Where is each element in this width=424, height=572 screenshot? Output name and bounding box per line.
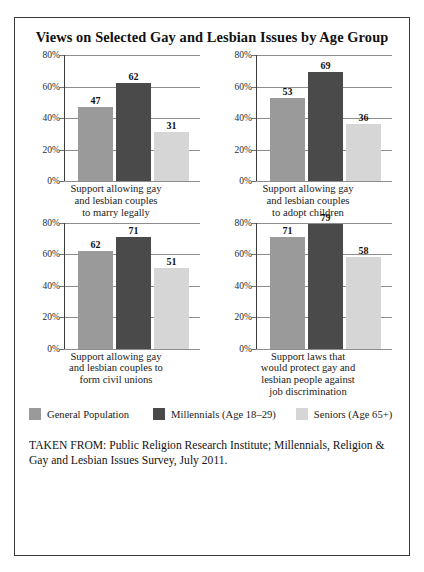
bar-value-label: 69 (308, 60, 343, 71)
bar-value-label: 62 (116, 71, 151, 82)
bar[interactable] (154, 268, 189, 348)
axis-tick (251, 181, 256, 182)
bar[interactable] (78, 251, 113, 349)
bar-group[interactable]: 69 (308, 55, 343, 181)
bar[interactable] (346, 124, 381, 181)
grid-region: 717958 (256, 223, 392, 349)
legend-swatch-icon (153, 408, 165, 420)
grid-region: 536936 (256, 55, 392, 181)
panel-caption-line: and lesbian couples (28, 195, 204, 207)
y-tick-label: 60% (235, 82, 252, 92)
figure-frame: Views on Selected Gay and Lesbian Issues… (14, 17, 410, 556)
chart-panel: 0%20%40%60%80%627151Support allowing gay… (21, 223, 211, 398)
y-tick-label: 40% (235, 281, 252, 291)
bar[interactable] (308, 72, 343, 181)
legend-item[interactable]: Millennials (Age 18–29) (153, 408, 276, 420)
bar[interactable] (308, 224, 343, 348)
y-tick-label: 20% (235, 145, 252, 155)
panel-caption-line: and lesbian couples to (28, 362, 204, 374)
y-tick-label: 60% (235, 249, 252, 259)
bar-value-label: 79 (308, 212, 343, 223)
gridline (64, 181, 200, 182)
bar[interactable] (154, 132, 189, 181)
panel-caption-line: and lesbian couples (220, 195, 396, 207)
legend-label: Millennials (Age 18–29) (171, 409, 276, 420)
grid-region: 627151 (64, 223, 200, 349)
y-axis-line (64, 223, 65, 349)
bar-group[interactable]: 71 (116, 223, 151, 349)
y-tick-label: 60% (43, 249, 60, 259)
legend-swatch-icon (296, 408, 308, 420)
bar-value-label: 51 (154, 256, 189, 267)
panel-caption-line: would protect gay and (220, 362, 396, 374)
chart-legend: General PopulationMillennials (Age 18–29… (15, 408, 409, 420)
panel-caption-line: job discrimination (220, 386, 396, 398)
gridline (256, 181, 392, 182)
panel-caption: Support allowing gayand lesbian couplest… (28, 183, 204, 219)
bar-value-label: 71 (116, 225, 151, 236)
chart-panel: 0%20%40%60%80%717958Support laws thatwou… (213, 223, 403, 398)
y-tick-label: 60% (43, 82, 60, 92)
y-axis-line (256, 223, 257, 349)
bar[interactable] (270, 98, 305, 181)
bars-row: 627151 (66, 223, 198, 349)
bars-row: 717958 (258, 223, 390, 349)
y-tick-label: 40% (43, 281, 60, 291)
y-tick-label: 80% (235, 218, 252, 228)
bar-group[interactable]: 53 (270, 55, 305, 181)
plot-area: 0%20%40%60%80%717958 (222, 223, 394, 349)
gridline (64, 349, 200, 350)
gridline (256, 349, 392, 350)
y-axis-line (64, 55, 65, 181)
y-tick-label: 80% (235, 50, 252, 60)
bar-group[interactable]: 62 (116, 55, 151, 181)
legend-item[interactable]: Seniors (Age 65+) (296, 408, 392, 420)
bar-group[interactable]: 51 (154, 223, 189, 349)
y-tick-label: 20% (43, 145, 60, 155)
legend-label: Seniors (Age 65+) (314, 409, 392, 420)
bar-value-label: 71 (270, 225, 305, 236)
bar[interactable] (116, 237, 151, 349)
bars-row: 536936 (258, 55, 390, 181)
legend-swatch-icon (29, 408, 41, 420)
bar-group[interactable]: 36 (346, 55, 381, 181)
y-tick-label: 40% (43, 113, 60, 123)
source-caption: TAKEN FROM: Public Religion Research Ins… (15, 438, 409, 469)
panel-caption: Support laws thatwould protect gay andle… (220, 351, 396, 398)
bar[interactable] (270, 237, 305, 349)
plot-area: 0%20%40%60%80%476231 (30, 55, 202, 181)
bar-value-label: 47 (78, 95, 113, 106)
bar-value-label: 58 (346, 245, 381, 256)
bar-group[interactable]: 31 (154, 55, 189, 181)
panel-caption: Support allowing gayand lesbian couples … (28, 351, 204, 387)
axis-tick (251, 349, 256, 350)
bar-value-label: 36 (346, 112, 381, 123)
bar-value-label: 31 (154, 120, 189, 131)
panel-caption-line: form civil unions (28, 374, 204, 386)
bar-group[interactable]: 58 (346, 223, 381, 349)
y-tick-label: 40% (235, 113, 252, 123)
bar[interactable] (116, 83, 151, 181)
figure-title: Views on Selected Gay and Lesbian Issues… (15, 29, 409, 46)
bar-group[interactable]: 71 (270, 223, 305, 349)
grid-region: 476231 (64, 55, 200, 181)
chart-panel-grid: 0%20%40%60%80%476231Support allowing gay… (15, 55, 409, 398)
bar-group[interactable]: 79 (308, 223, 343, 349)
bars-row: 476231 (66, 55, 198, 181)
legend-label: General Population (47, 409, 129, 420)
bar-group[interactable]: 62 (78, 223, 113, 349)
y-tick-label: 80% (43, 50, 60, 60)
axis-tick (59, 181, 64, 182)
bar[interactable] (346, 257, 381, 348)
plot-area: 0%20%40%60%80%536936 (222, 55, 394, 181)
plot-area: 0%20%40%60%80%627151 (30, 223, 202, 349)
bar-group[interactable]: 47 (78, 55, 113, 181)
panel-caption-line: lesbian people against (220, 374, 396, 386)
bar[interactable] (78, 107, 113, 181)
y-tick-label: 20% (235, 312, 252, 322)
legend-item[interactable]: General Population (29, 408, 129, 420)
chart-panel: 0%20%40%60%80%536936Support allowing gay… (213, 55, 403, 219)
axis-tick (59, 349, 64, 350)
bar-value-label: 53 (270, 86, 305, 97)
chart-panel: 0%20%40%60%80%476231Support allowing gay… (21, 55, 211, 219)
